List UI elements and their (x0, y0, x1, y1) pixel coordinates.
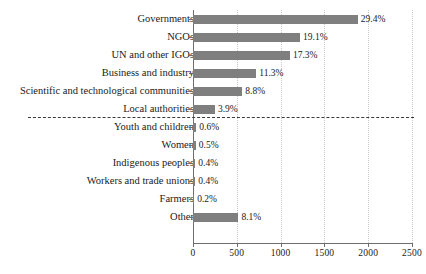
category-label: Governments (137, 10, 194, 28)
x-axis-tick-2500 (412, 243, 413, 247)
bar (193, 213, 238, 222)
bar (193, 105, 215, 114)
bar-row: Workers and trade unions0.4% (0, 172, 426, 190)
bar (193, 51, 290, 60)
x-axis-tick-label: 1000 (261, 248, 301, 258)
x-axis-tick-label: 0 (173, 248, 213, 258)
x-axis-tick-label: 2500 (392, 248, 426, 258)
x-axis-tick-2000 (368, 243, 369, 247)
bar-value-label: 0.4% (198, 172, 218, 190)
x-axis-line (193, 243, 413, 244)
bar-row: Other8.1% (0, 208, 426, 226)
bar-row: Governments29.4% (0, 10, 426, 28)
bar-row: Business and industry11.3% (0, 64, 426, 82)
category-label: Workers and trade unions (87, 172, 194, 190)
bar-chart: Governments29.4%NGOs19.1%UN and other IG… (0, 0, 426, 274)
x-axis-tick-1500 (324, 243, 325, 247)
y-axis-tick (189, 217, 193, 218)
y-axis-tick (189, 163, 193, 164)
y-axis-tick (189, 127, 193, 128)
bar-value-label: 29.4% (361, 10, 386, 28)
bar (193, 195, 194, 204)
bar-value-label: 8.8% (245, 82, 265, 100)
bar (193, 159, 195, 168)
y-axis-tick (189, 181, 193, 182)
category-label: Youth and children (114, 118, 194, 136)
category-label: Scientific and technological communities (20, 82, 194, 100)
x-axis-tick-500 (237, 243, 238, 247)
y-axis-tick (189, 73, 193, 74)
bar-row: Youth and children0.6% (0, 118, 426, 136)
bar-value-label: 0.5% (199, 136, 219, 154)
y-axis-tick (189, 145, 193, 146)
y-axis-tick (189, 37, 193, 38)
x-axis-tick-label: 500 (217, 248, 257, 258)
x-axis-tick-label: 2000 (348, 248, 388, 258)
y-axis-tick (189, 19, 193, 20)
bar-value-label: 8.1% (241, 208, 261, 226)
y-axis-tick (189, 55, 193, 56)
bar (193, 33, 300, 42)
category-label: Local authorities (123, 100, 194, 118)
category-label: Business and industry (102, 64, 194, 82)
y-axis-tick (189, 109, 193, 110)
y-axis-tick (189, 91, 193, 92)
x-axis-tick-0 (193, 243, 194, 247)
x-axis-tick-1000 (281, 243, 282, 247)
bar-value-label: 19.1% (303, 28, 328, 46)
bar-row: UN and other IGOs17.3% (0, 46, 426, 64)
y-axis-tick (189, 199, 193, 200)
category-label: Indigenous peoples (113, 154, 194, 172)
bar-value-label: 3.9% (218, 100, 238, 118)
bar (193, 15, 358, 24)
bar (193, 177, 195, 186)
bar-row: Indigenous peoples0.4% (0, 154, 426, 172)
dashed-separator-line (28, 117, 414, 118)
bar-value-label: 17.3% (293, 46, 318, 64)
bar-row: Women0.5% (0, 136, 426, 154)
bar-row: Local authorities3.9% (0, 100, 426, 118)
bar-row: Scientific and technological communities… (0, 82, 426, 100)
bar-row: Farmers0.2% (0, 190, 426, 208)
category-label: UN and other IGOs (111, 46, 194, 64)
bar-value-label: 0.4% (198, 154, 218, 172)
x-axis-tick-label: 1500 (304, 248, 344, 258)
bar-value-label: 11.3% (259, 64, 283, 82)
bar-value-label: 0.6% (199, 118, 219, 136)
bar (193, 87, 242, 96)
cropped-title-strip (0, 0, 426, 5)
bar-value-label: 0.2% (197, 190, 217, 208)
bar-row: NGOs19.1% (0, 28, 426, 46)
bar (193, 141, 196, 150)
bar (193, 123, 196, 132)
bar (193, 69, 256, 78)
